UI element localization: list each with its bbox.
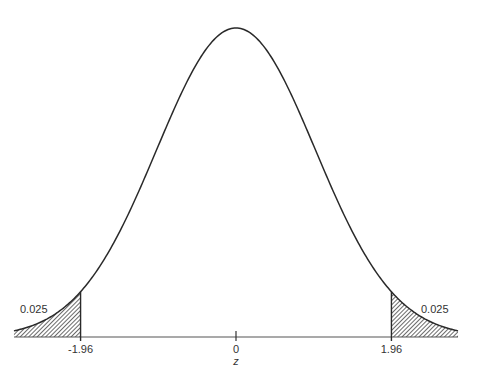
left-tail-area-label: 0.025: [20, 303, 48, 315]
tick-label-neg-1-96: -1.96: [68, 343, 93, 355]
x-axis-label: z: [232, 355, 239, 367]
normal-distribution-chart: -1.96 0 1.96 z 0.025 0.025: [0, 0, 482, 384]
tick-label-0: 0: [233, 343, 239, 355]
tick-label-1-96: 1.96: [381, 343, 402, 355]
normal-curve: [14, 28, 458, 331]
right-tail-area-label: 0.025: [421, 303, 449, 315]
